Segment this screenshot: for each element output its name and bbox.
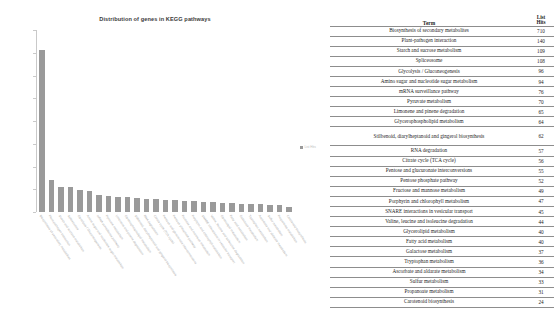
table-row: Sulfur metabolism33: [330, 277, 554, 287]
bar: [172, 200, 178, 212]
bar: [163, 200, 169, 213]
x-label-slot: Stilbenoid, diarylheptanoid and gingerol…: [132, 213, 142, 313]
cell-list-hits: 55: [528, 166, 554, 176]
cell-list-hits: 47: [528, 196, 554, 206]
bar-slot: [151, 30, 161, 212]
x-label-slot: Glycerophospholipid metabolism: [123, 213, 133, 313]
bar: [201, 202, 207, 212]
cell-term: Tryptophan metabolism: [330, 257, 528, 267]
bar-slot: [123, 30, 133, 212]
y-axis-tick: [33, 189, 36, 190]
cell-list-hits: 36: [528, 257, 554, 267]
bar-slot: [142, 30, 152, 212]
x-label-slot: Pentose and glucuronate interconversions: [161, 213, 171, 313]
cell-term: Biosynthesis of secondary metabolites: [330, 26, 528, 36]
table-row: Pyruvate metabolism70: [330, 97, 554, 107]
table-row: RNA degradation57: [330, 146, 554, 156]
bar-slot: [104, 30, 114, 212]
cell-term: Pyruvate metabolism: [330, 97, 528, 107]
bar: [49, 180, 55, 212]
kegg-figure: Distribution of genes in KEGG pathways 8…: [0, 0, 558, 318]
bar-slot: [256, 30, 266, 212]
cell-term: Fructose and mannose metabolism: [330, 186, 528, 196]
bar-slot: [199, 30, 209, 212]
bar-slot: [265, 30, 275, 212]
y-axis-tick: [33, 76, 36, 77]
x-label-slot: Citrate cycle (TCA cycle): [151, 213, 161, 313]
x-label-slot: Valine, leucine and isoleucine degradati…: [208, 213, 218, 313]
cell-list-hits: 33: [528, 277, 554, 287]
x-label-slot: Sulfur metabolism: [265, 213, 275, 313]
x-label-slot: Starch and sucrose metabolism: [56, 213, 66, 313]
y-axis-tick: [33, 53, 36, 54]
table-row: Limonene and pinene degradation65: [330, 107, 554, 117]
table-row: Fatty acid metabolism40: [330, 237, 554, 247]
cell-list-hits: 94: [528, 76, 554, 86]
legend-label: List Hits: [305, 145, 316, 149]
cell-list-hits: 34: [528, 267, 554, 277]
cell-term: Ascorbate and aldarate metabolism: [330, 267, 528, 277]
cell-term: Fatty acid metabolism: [330, 237, 528, 247]
bar: [182, 201, 188, 212]
cell-term: Spliceosome: [330, 56, 528, 66]
cell-term: Starch and sucrose metabolism: [330, 46, 528, 56]
x-label-slot: Pyruvate metabolism: [104, 213, 114, 313]
cell-list-hits: 52: [528, 176, 554, 186]
table-row: Valine, leucine and isoleucine degradati…: [330, 217, 554, 227]
x-label-slot: Biosynthesis of secondary metabolites: [37, 213, 47, 313]
x-label-slot: Amino sugar and nucleotide sugar metabol…: [85, 213, 95, 313]
cell-term: Plant-pathogen interaction: [330, 36, 528, 46]
cell-list-hits: 40: [528, 237, 554, 247]
table-row: mRNA surveillance pathway76: [330, 87, 554, 97]
cell-list-hits: 76: [528, 87, 554, 97]
y-axis-tick: [33, 30, 36, 31]
cell-list-hits: 65: [528, 107, 554, 117]
cell-list-hits: 140: [528, 36, 554, 46]
bar: [77, 190, 83, 212]
cell-list-hits: 37: [528, 247, 554, 257]
bar: [210, 202, 216, 212]
bar-slot: [227, 30, 237, 212]
x-label-slot: Glycolysis / Gluconeogenesis: [75, 213, 85, 313]
bar: [115, 197, 121, 212]
x-label-slot: Pentose phosphate pathway: [170, 213, 180, 313]
bar-slot: [208, 30, 218, 212]
bar-slot: [113, 30, 123, 212]
bar-slot: [284, 30, 294, 212]
bar: [106, 196, 112, 212]
table-row: Glycolysis / Gluconeogenesis96: [330, 66, 554, 76]
bar-slot: [85, 30, 95, 212]
chart-title: Distribution of genes in KEGG pathways: [0, 16, 310, 22]
cell-list-hits: 40: [528, 227, 554, 237]
bar: [39, 50, 45, 212]
table-row: Biosynthesis of secondary metabolites710: [330, 26, 554, 36]
table-row: Starch and sucrose metabolism109: [330, 46, 554, 56]
cell-term: Stilbenoid, diarylheptanoid and gingerol…: [330, 127, 528, 146]
bar: [286, 207, 292, 212]
y-axis-tick: [33, 167, 36, 168]
cell-term: Sulfur metabolism: [330, 277, 528, 287]
bar: [96, 195, 102, 212]
cell-list-hits: 108: [528, 56, 554, 66]
cell-list-hits: 710: [528, 26, 554, 36]
cell-term: SNARE interactions in vesicular transpor…: [330, 207, 528, 217]
cell-term: Glycerophospholipid metabolism: [330, 117, 528, 127]
cell-list-hits: 56: [528, 156, 554, 166]
bar: [229, 203, 235, 212]
x-label-slot: Fructose and mannose metabolism: [180, 213, 190, 313]
cell-list-hits: 57: [528, 146, 554, 156]
x-label-slot: Glycerolipid metabolism: [218, 213, 228, 313]
cell-term: Propanoate metabolism: [330, 287, 528, 297]
cell-term: mRNA surveillance pathway: [330, 87, 528, 97]
bar: [153, 199, 159, 212]
table-row: Galactose metabolism37: [330, 247, 554, 257]
bar-slot: [218, 30, 228, 212]
cell-list-hits: 44: [528, 217, 554, 227]
bar: [68, 187, 74, 212]
x-label-slot: Galactose metabolism: [237, 213, 247, 313]
cell-term: Valine, leucine and isoleucine degradati…: [330, 217, 528, 227]
cell-list-hits: 96: [528, 66, 554, 76]
x-label-slot: SNARE interactions in vesicular transpor…: [199, 213, 209, 313]
x-label-slot: RNA degradation: [142, 213, 152, 313]
plot-area: 8007006005004003002001000: [36, 30, 294, 212]
